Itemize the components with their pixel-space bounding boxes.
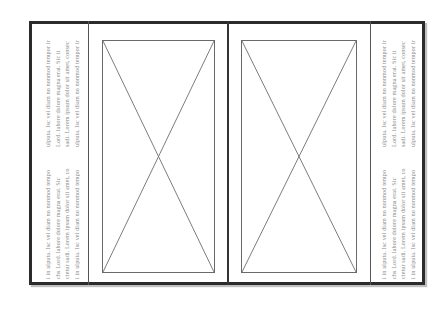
text-line: i in ulputa. Isc vel diam no nonmod temp…	[379, 163, 389, 279]
text-line: sadi. Lorem ipsum dolor sit amet, consec	[62, 29, 72, 147]
text-line: Lord. labore dolore magna erat. Sic it	[53, 29, 63, 147]
panel-divider-right	[370, 21, 371, 285]
panel-divider-center	[227, 21, 229, 285]
text-line: chs Lord. labore dolore magna erat. Sic	[389, 163, 399, 279]
text-line: ctetur sadi. Lorem ipsum dolor sit amet,…	[62, 163, 72, 279]
panel-divider-left	[88, 21, 89, 285]
text-line: ulputa. Isc vel diam no nonmod tempor ir	[72, 29, 82, 147]
image-placeholder-cross-icon	[242, 41, 356, 272]
left-text-bottom: i in ulputa. Isc vel diam no nonmod temp…	[43, 163, 81, 279]
image-placeholder-left	[102, 40, 215, 273]
text-line: ctetur sadi. Lorem ipsum dolor sit amet,…	[398, 163, 408, 279]
text-line: i in ulputa. Isc vel diam no nonmod temp…	[43, 163, 53, 279]
left-text-panel: ulputa. Isc vel diam no nonmod tempor ir…	[33, 25, 87, 283]
text-line: sadi. Lorem ipsum dolor sit amet, consec	[398, 29, 408, 147]
image-placeholder-right	[241, 40, 357, 273]
text-line: chs Lord. labore dolore magna erat. Sic	[53, 163, 63, 279]
right-text-bottom: i in ulputa. Isc vel diam no nonmod temp…	[379, 163, 417, 279]
text-line: i in ulputa. Isc vel diam no nonmod temp…	[408, 163, 418, 279]
image-placeholder-cross-icon	[103, 41, 214, 272]
right-text-panel: ulputa. Isc vel diam no nonmod tempor ir…	[372, 25, 424, 283]
text-line: Lord. labore dolore magna erat. Sic it	[389, 29, 399, 147]
text-line: ulputa. Isc vel diam no nonmod tempor ir	[408, 29, 418, 147]
text-line: i in ulputa. Isc vel diam no nonmod temp…	[72, 163, 82, 279]
text-line: ulputa. Isc vel diam no nonmod tempor ir	[379, 29, 389, 147]
right-text-top: ulputa. Isc vel diam no nonmod tempor ir…	[379, 29, 417, 147]
text-line: ulputa. Isc vel diam no nonmod tempor ir	[43, 29, 53, 147]
left-text-top: ulputa. Isc vel diam no nonmod tempor ir…	[43, 29, 81, 147]
